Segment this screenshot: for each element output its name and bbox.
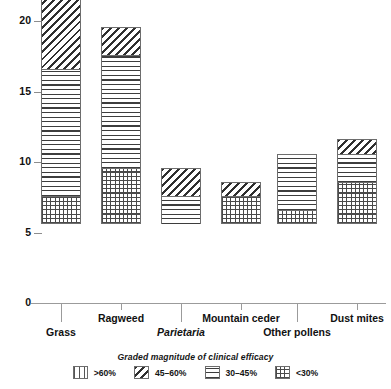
y-tick-label: 15 [19, 85, 31, 98]
bar-segment [41, 196, 81, 224]
legend-label: 45–60% [155, 368, 187, 378]
bar-segment [221, 182, 261, 196]
category-tick [297, 304, 298, 322]
bar-mountain-ceder [221, 182, 261, 224]
legend-title: Graded magnitude of clinical efficacy [0, 352, 391, 362]
category-label-dust-mites: Dust mites [330, 312, 384, 324]
legend-item: >60% [73, 366, 116, 379]
bar-segment [337, 154, 377, 182]
legend-swatch-vertical-lines-icon [73, 366, 88, 379]
y-tick-label: 10 [19, 155, 31, 168]
plot-area: 20 15 10 5 0 GrassRagweedPar [0, 0, 391, 310]
legend-label: <30% [296, 368, 318, 378]
legend-items: >60%45–60%30–45%<30% [0, 366, 391, 379]
legend-swatch-cross-hatch-icon [275, 366, 290, 379]
bar-segment [337, 139, 377, 153]
legend-item: <30% [275, 366, 318, 379]
legend-swatch-diagonal-hatch-icon [134, 366, 149, 379]
stacked-bar-chart: 20 15 10 5 0 GrassRagweedPar [0, 0, 391, 389]
category-tick [181, 304, 182, 322]
bar-segment [277, 210, 317, 224]
bar-segment [41, 69, 81, 196]
bar-segment [101, 27, 141, 55]
category-label-mountain-ceder: Mountain ceder [202, 312, 280, 324]
bar-segment [101, 168, 141, 224]
bar-segment [161, 168, 201, 196]
category-label-grass: Grass [46, 326, 76, 338]
y-tick-label: 20 [19, 14, 31, 27]
y-tick-label: 5 [25, 226, 31, 239]
bar-ragweed [101, 27, 141, 224]
category-tick [241, 304, 242, 310]
legend-label: >60% [94, 368, 116, 378]
category-label-other-pollens: Other pollens [263, 326, 331, 338]
bar-segment [221, 196, 261, 224]
legend-label: 30–45% [226, 368, 258, 378]
bar-segment [161, 196, 201, 224]
bar-dust-mites [337, 139, 377, 224]
category-label-ragweed: Ragweed [98, 312, 144, 324]
x-axis-baseline [31, 303, 386, 304]
bar-segment [41, 0, 81, 69]
category-tick [61, 304, 62, 322]
legend-item: 45–60% [134, 366, 187, 379]
bar-other-pollens [277, 154, 317, 224]
category-tick [357, 304, 358, 310]
bar-grass [41, 0, 81, 224]
category-label-parietaria: Parietaria [157, 326, 205, 338]
y-tick-mark [34, 233, 42, 234]
bar-segment [337, 182, 377, 224]
category-tick [121, 304, 122, 310]
bar-segment [101, 55, 141, 168]
bar-segment [277, 154, 317, 210]
bar-parietaria [161, 168, 201, 224]
legend-item: 30–45% [205, 366, 258, 379]
legend-swatch-horizontal-lines-icon [205, 366, 220, 379]
